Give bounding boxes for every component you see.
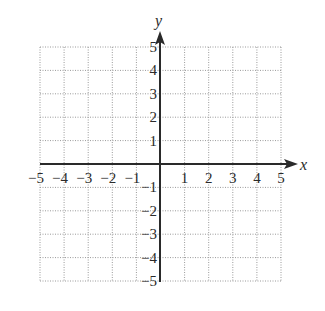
x-tick-label: 4 xyxy=(253,170,261,186)
y-tick-label: 3 xyxy=(150,86,158,102)
x-tick-label: 5 xyxy=(277,170,285,186)
y-tick-label: 2 xyxy=(150,109,158,125)
x-tick-label: 1 xyxy=(181,170,189,186)
y-tick-label: −1 xyxy=(141,179,157,195)
x-tick-label: −4 xyxy=(52,170,68,186)
y-tick-label: −4 xyxy=(141,250,157,266)
y-tick-label: −5 xyxy=(141,273,157,289)
y-tick-label: −2 xyxy=(141,203,157,219)
y-tick-label: 1 xyxy=(150,133,158,149)
x-tick-label: 3 xyxy=(229,170,237,186)
y-tick-label: −3 xyxy=(141,226,157,242)
x-tick-label: −1 xyxy=(124,170,140,186)
y-tick-label: 5 xyxy=(150,39,158,55)
axes: x y xyxy=(40,12,307,282)
x-axis-label: x xyxy=(299,156,307,173)
x-tick-label: −2 xyxy=(100,170,116,186)
y-axis-label: y xyxy=(153,12,163,30)
x-tick-label: 2 xyxy=(205,170,213,186)
x-tick-label: −3 xyxy=(76,170,92,186)
x-tick-label: −5 xyxy=(28,170,44,186)
y-tick-label: 4 xyxy=(150,62,158,78)
coordinate-plane: x y −5−4−3−2−112345 −5−4−3−2−112345 xyxy=(0,0,325,311)
